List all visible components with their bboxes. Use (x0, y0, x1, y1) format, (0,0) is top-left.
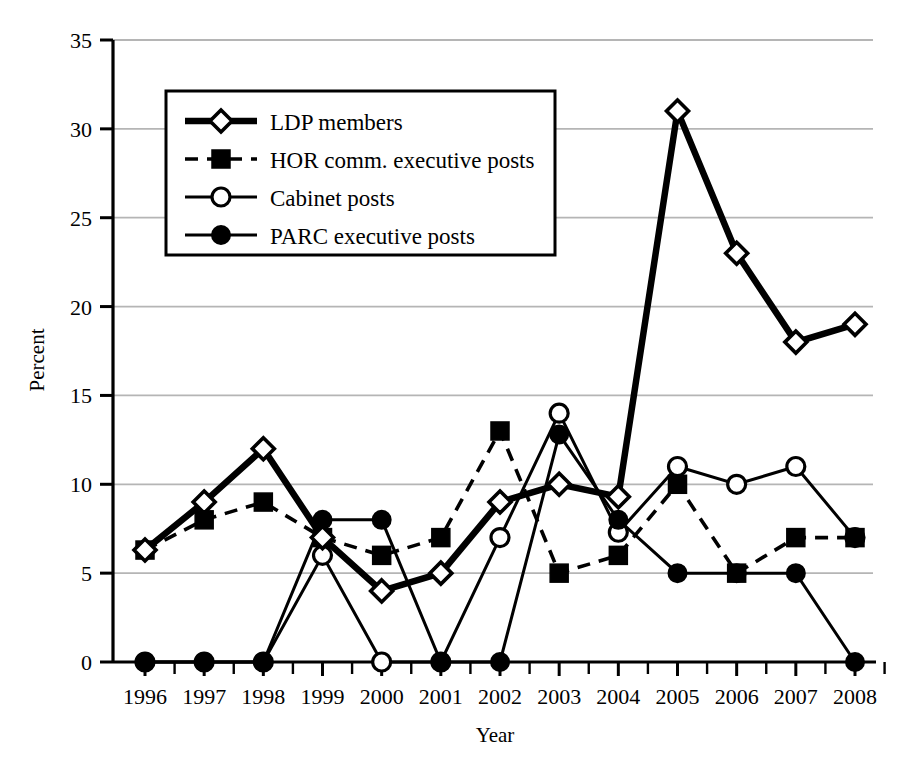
data-point-hor-comm-executive-posts-legend (212, 150, 230, 168)
x-axis-title: Year (476, 723, 515, 747)
legend-label: PARC executive posts (270, 224, 475, 249)
x-tick-label-2000: 2000 (360, 684, 404, 709)
data-point-hor-comm-executive-posts-5 (432, 529, 450, 547)
y-tick-label-15: 15 (70, 383, 92, 408)
data-point-parc-executive-posts-7 (550, 426, 568, 444)
data-point-parc-executive-posts-9 (669, 564, 687, 582)
legend-label: HOR comm. executive posts (270, 148, 535, 173)
x-tick-label-2006: 2006 (715, 684, 759, 709)
chart-canvas: 05101520253035 1996199719981999200020012… (0, 0, 901, 766)
line-chart: 05101520253035 1996199719981999200020012… (0, 0, 901, 766)
data-point-hor-comm-executive-posts-11 (787, 529, 805, 547)
data-point-cabinet-posts-4 (373, 653, 391, 671)
x-tick-label-1997: 1997 (182, 684, 226, 709)
data-point-parc-executive-posts-11 (787, 564, 805, 582)
data-point-hor-comm-executive-posts-9 (669, 475, 687, 493)
data-point-cabinet-posts-7 (550, 404, 568, 422)
data-point-parc-executive-posts-1 (195, 653, 213, 671)
x-tick-label-2005: 2005 (656, 684, 700, 709)
data-point-cabinet-posts-10 (728, 475, 746, 493)
data-point-hor-comm-executive-posts-7 (550, 564, 568, 582)
x-tick-label-1998: 1998 (241, 684, 285, 709)
data-point-parc-executive-posts-8 (609, 511, 627, 529)
data-point-cabinet-posts-11 (787, 458, 805, 476)
data-point-parc-executive-posts-12 (846, 653, 864, 671)
data-point-parc-executive-posts-2 (254, 653, 272, 671)
data-point-cabinet-posts-9 (669, 458, 687, 476)
legend-label: Cabinet posts (270, 186, 395, 211)
y-tick-label-20: 20 (70, 295, 92, 320)
data-point-cabinet-posts-legend (212, 188, 230, 206)
legend-label: LDP members (270, 110, 403, 135)
data-point-cabinet-posts-6 (491, 529, 509, 547)
x-tick-label-2003: 2003 (537, 684, 581, 709)
x-tick-label-2002: 2002 (478, 684, 522, 709)
data-point-hor-comm-executive-posts-8 (609, 546, 627, 564)
y-tick-label-10: 10 (70, 472, 92, 497)
x-tick-label-1996: 1996 (123, 684, 167, 709)
x-tick-label-2001: 2001 (419, 684, 463, 709)
x-tick-label-1999: 1999 (301, 684, 345, 709)
x-tick-label-2008: 2008 (833, 684, 877, 709)
data-point-parc-executive-posts-6 (491, 653, 509, 671)
legend[interactable]: LDP membersHOR comm. executive postsCabi… (166, 91, 555, 255)
x-tick-label-2004: 2004 (596, 684, 640, 709)
y-tick-label-5: 5 (81, 561, 92, 586)
y-tick-label-0: 0 (81, 650, 92, 675)
x-tick-label-2007: 2007 (774, 684, 818, 709)
y-tick-label-25: 25 (70, 206, 92, 231)
data-point-parc-executive-posts-4 (373, 511, 391, 529)
data-point-parc-executive-posts-0 (136, 653, 154, 671)
data-point-parc-executive-posts-5 (432, 653, 450, 671)
y-axis-title: Percent (25, 328, 49, 391)
data-point-hor-comm-executive-posts-10 (728, 564, 746, 582)
data-point-hor-comm-executive-posts-12 (846, 529, 864, 547)
y-tick-label-35: 35 (70, 28, 92, 53)
y-tick-label-30: 30 (70, 117, 92, 142)
data-point-hor-comm-executive-posts-6 (491, 422, 509, 440)
data-point-hor-comm-executive-posts-4 (373, 546, 391, 564)
data-point-hor-comm-executive-posts-2 (254, 493, 272, 511)
data-point-parc-executive-posts-legend (212, 226, 230, 244)
